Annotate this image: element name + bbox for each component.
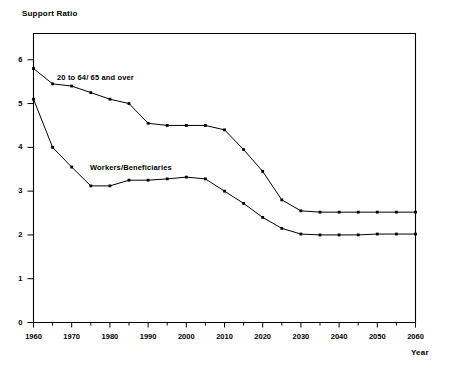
data-point-marker [223,128,226,131]
data-point-marker [395,211,398,214]
data-point-marker [32,67,35,70]
data-point-marker [51,146,54,149]
x-tick-label: 2000 [166,332,206,341]
y-tick-label: 1 [9,274,23,283]
data-point-marker [51,82,54,85]
x-tick-label: 2010 [205,332,245,341]
x-tick-label: 1960 [14,332,54,341]
data-point-marker [70,85,73,88]
y-tick-label: 5 [9,99,23,108]
x-tick-label: 2020 [243,332,283,341]
y-tick-label: 2 [9,230,23,239]
x-tick-label: 2030 [281,332,321,341]
data-point-marker [109,184,112,187]
data-point-marker [70,166,73,169]
x-tick-label: 1970 [52,332,92,341]
x-tick-label: 1990 [128,332,168,341]
y-tick-label: 6 [9,55,23,64]
data-point-marker [300,233,303,236]
data-point-marker [280,227,283,230]
plot-frame [34,34,416,323]
data-point-marker [204,124,207,127]
data-point-marker [147,122,150,125]
plot-area [0,0,450,366]
data-point-marker [166,177,169,180]
data-point-marker [338,211,341,214]
data-point-marker [242,202,245,205]
data-point-marker [261,170,264,173]
data-point-marker [89,91,92,94]
data-point-marker [280,198,283,201]
data-point-marker [414,211,417,214]
data-point-marker [242,148,245,151]
data-point-marker [166,124,169,127]
data-point-marker [128,179,131,182]
data-point-marker [300,209,303,212]
data-point-marker [223,190,226,193]
data-point-marker [185,124,188,127]
data-point-marker [89,184,92,187]
y-tick-label: 0 [9,318,23,327]
series-line-1 [34,99,416,235]
data-point-marker [109,98,112,101]
x-tick-label: 2060 [396,332,436,341]
y-tick-label: 4 [9,142,23,151]
data-point-marker [128,102,131,105]
data-point-marker [357,234,360,237]
data-point-marker [376,211,379,214]
data-point-marker [147,179,150,182]
data-point-marker [357,211,360,214]
x-tick-label: 2050 [357,332,397,341]
data-point-marker [376,233,379,236]
data-point-marker [319,234,322,237]
data-point-marker [338,234,341,237]
data-point-marker [261,216,264,219]
x-tick-label: 1980 [90,332,130,341]
data-point-marker [204,177,207,180]
data-point-marker [32,98,35,101]
data-point-marker [395,233,398,236]
data-point-marker [414,233,417,236]
y-tick-label: 3 [9,186,23,195]
data-point-marker [185,176,188,179]
x-tick-label: 2040 [319,332,359,341]
support-ratio-chart: Support Ratio Year 20 to 64/ 65 and over… [0,0,450,366]
data-point-marker [319,211,322,214]
